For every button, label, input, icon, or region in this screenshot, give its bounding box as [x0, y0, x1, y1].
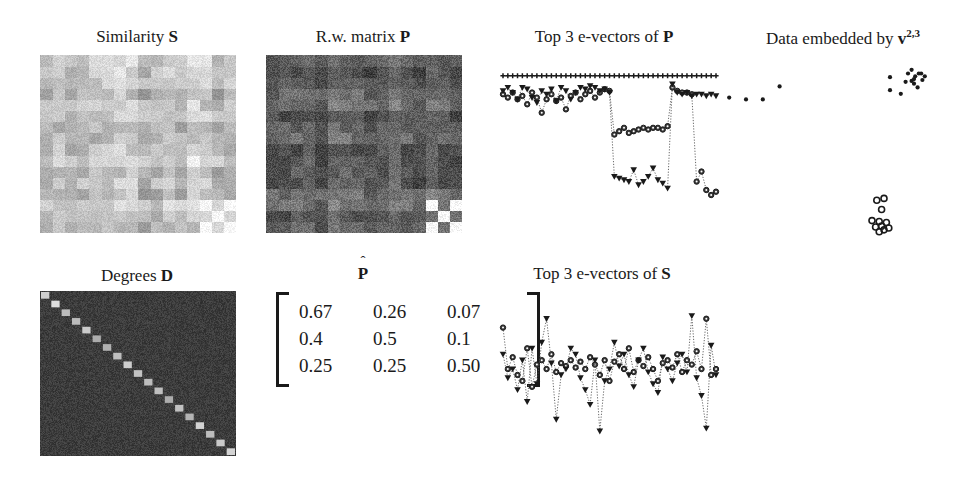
heatmap-degrees-diagonal: [40, 291, 236, 456]
panel-title-embedding: Data embedded by v2,3: [723, 28, 963, 47]
matrix-phat-grid: 0.67 0.26 0.07 0.4 0.5 0.1 0.25 0.25 0.5…: [289, 292, 527, 387]
matrix-cell: 0.26: [373, 299, 447, 326]
panel-title-evec-p-symbol: P: [663, 27, 673, 46]
panel-title-evec-p-text: Top 3 e-vectors of: [535, 27, 663, 46]
scatter-data-embedding: [722, 55, 962, 240]
heatmap-similarity: [40, 55, 236, 233]
panel-title-embedding-superscript: 2,3: [906, 27, 920, 39]
panel-title-embedding-text: Data embedded by: [766, 29, 898, 48]
panel-title-similarity-symbol: S: [168, 27, 177, 46]
panel-title-degrees-symbol: D: [161, 266, 173, 285]
matrix-cell: 0.5: [373, 326, 447, 353]
panel-title-rwmatrix-text: R.w. matrix: [316, 27, 400, 46]
lineplot-evectors-of-p: [497, 58, 722, 238]
phat-symbol-group: ˆP: [358, 265, 368, 282]
hat-accent-icon: ˆ: [360, 254, 365, 269]
panel-title-phat: ˆP: [226, 265, 500, 282]
matrix-cell: 0.25: [299, 353, 373, 380]
matrix-cell: 0.4: [299, 326, 373, 353]
panel-title-evec-s-symbol: S: [661, 264, 670, 283]
panel-title-rwmatrix-symbol: P: [400, 27, 410, 46]
panel-title-evec-p: Top 3 e-vectors of P: [484, 28, 724, 45]
figure-root: Similarity S R.w. matrix P Top 3 e-vecto…: [0, 0, 967, 481]
matrix-cell: 0.25: [373, 353, 447, 380]
panel-title-evec-s-text: Top 3 e-vectors of: [533, 264, 661, 283]
bracket-left-icon: [276, 292, 289, 387]
lineplot-evectors-of-s: [497, 292, 722, 452]
panel-title-evec-s: Top 3 e-vectors of S: [482, 265, 722, 282]
panel-title-rwmatrix: R.w. matrix P: [226, 28, 500, 45]
panel-title-degrees-text: Degrees: [101, 266, 161, 285]
panel-title-embedding-symbol: v: [898, 29, 907, 48]
panel-title-similarity-text: Similarity: [96, 27, 168, 46]
heatmap-rw-matrix: [266, 55, 462, 233]
matrix-cell: 0.67: [299, 299, 373, 326]
